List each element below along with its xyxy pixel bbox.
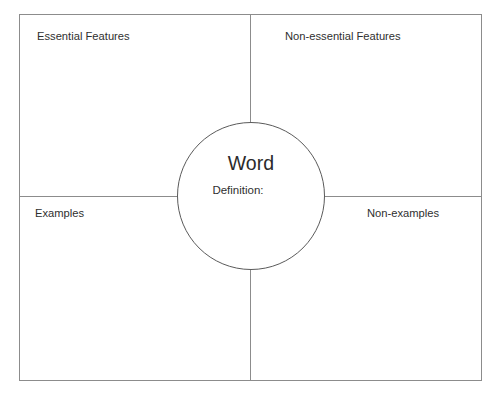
horizontal-divider-left	[20, 196, 177, 197]
frayer-model-canvas: Essential Features Non-essential Feature…	[0, 0, 500, 395]
quadrant-label-essential-features: Essential Features	[37, 29, 130, 43]
center-circle: Word Definition:	[177, 122, 325, 270]
quadrant-label-non-essential-features: Non-essential Features	[285, 29, 401, 43]
vertical-divider-bottom	[250, 270, 251, 380]
horizontal-divider-right	[325, 196, 481, 197]
center-word-label: Word	[178, 152, 324, 174]
quadrant-label-non-examples: Non-examples	[367, 206, 439, 220]
quadrant-label-examples: Examples	[35, 206, 84, 220]
center-definition-label: Definition:	[165, 183, 311, 197]
vertical-divider-top	[250, 15, 251, 122]
